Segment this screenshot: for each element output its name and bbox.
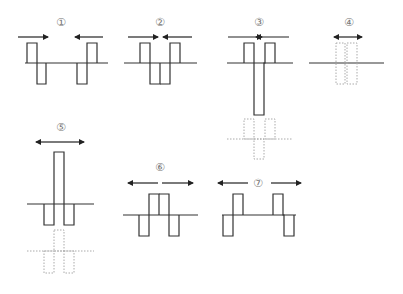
panel-2: ② bbox=[124, 16, 197, 84]
panel-3: ③ bbox=[227, 16, 293, 159]
panel-label-4: ④ bbox=[344, 16, 354, 29]
panel-label-6: ⑥ bbox=[155, 161, 165, 174]
panel-label-2: ② bbox=[155, 16, 165, 29]
ghost-pulse bbox=[64, 251, 74, 273]
panel-label-7: ⑦ bbox=[253, 177, 263, 190]
ghost-pulse bbox=[44, 251, 54, 273]
panel-4: ④ bbox=[309, 16, 384, 84]
ghost-pulse bbox=[265, 119, 275, 139]
panel-1: ① bbox=[18, 16, 108, 84]
panel-label-5: ⑤ bbox=[56, 121, 66, 134]
ghost-pulse bbox=[54, 230, 64, 251]
superposed-pulse bbox=[244, 43, 275, 115]
panel-5: ⑤ bbox=[27, 121, 94, 273]
panel-6: ⑥ bbox=[123, 161, 198, 236]
ghost-pulse bbox=[244, 119, 254, 139]
pulse-interaction-diagram: ① ② ③ ④ ⑤ bbox=[0, 0, 403, 294]
panel-label-3: ③ bbox=[254, 16, 264, 29]
panel-7: ⑦ bbox=[218, 177, 301, 236]
ghost-pulse bbox=[254, 139, 264, 159]
superposed-pulse bbox=[44, 152, 74, 225]
panel-label-1: ① bbox=[56, 16, 66, 29]
